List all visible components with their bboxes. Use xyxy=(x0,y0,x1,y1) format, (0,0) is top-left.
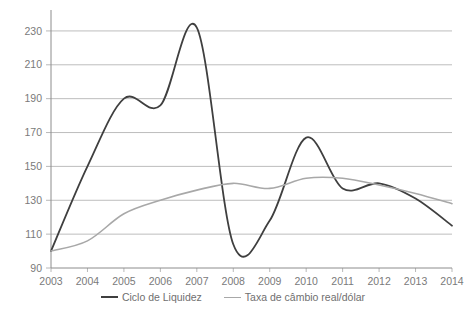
chart-plot-area: 90110130150170190210230 2003200420052006… xyxy=(0,0,466,290)
x-tick-label-2006: 2006 xyxy=(149,275,173,287)
x-tick-label-2003: 2003 xyxy=(39,275,63,287)
y-tick-label-110: 110 xyxy=(25,228,42,240)
x-tick-label-2012: 2012 xyxy=(367,275,391,287)
y-tick-label-90: 90 xyxy=(30,262,42,274)
gridlines-group xyxy=(46,31,452,268)
x-tick-label-2013: 2013 xyxy=(404,275,428,287)
x-tick-label-2005: 2005 xyxy=(112,275,136,287)
y-tick-label-230: 230 xyxy=(24,25,42,37)
series-line-taxa-de-cambio xyxy=(51,177,452,251)
legend-entry-taxa-de-cambio[interactable]: Taxa de câmbio real/dólar xyxy=(224,291,365,303)
x-axis-tick-labels: 2003200420052006200720082009201020112012… xyxy=(39,268,464,287)
x-tick-label-2008: 2008 xyxy=(222,275,246,287)
x-tick-label-2004: 2004 xyxy=(76,275,100,287)
y-tick-label-190: 190 xyxy=(24,92,42,104)
y-tick-label-130: 130 xyxy=(24,194,42,206)
chart-legend: Ciclo de Liquidez Taxa de câmbio real/dó… xyxy=(0,288,466,306)
x-tick-label-2009: 2009 xyxy=(258,275,282,287)
x-tick-label-2011: 2011 xyxy=(331,275,354,287)
y-axis-tick-labels: 90110130150170190210230 xyxy=(24,25,42,274)
legend-swatch-ciclo-de-liquidez xyxy=(101,296,118,298)
chart-figure: 90110130150170190210230 2003200420052006… xyxy=(0,0,466,326)
axis-lines-group xyxy=(51,10,452,268)
legend-label-taxa-de-cambio: Taxa de câmbio real/dólar xyxy=(245,291,365,303)
y-tick-label-210: 210 xyxy=(24,58,42,70)
legend-label-ciclo-de-liquidez: Ciclo de Liquidez xyxy=(122,291,202,303)
x-tick-label-2007: 2007 xyxy=(185,275,209,287)
y-tick-label-170: 170 xyxy=(24,126,42,138)
x-tick-label-2010: 2010 xyxy=(295,275,319,287)
legend-swatch-taxa-de-cambio xyxy=(224,297,241,298)
data-series-group xyxy=(51,24,452,257)
x-tick-label-2014: 2014 xyxy=(440,275,464,287)
line-chart-svg: 90110130150170190210230 2003200420052006… xyxy=(0,0,466,290)
y-tick-label-150: 150 xyxy=(24,160,42,172)
series-line-ciclo-de-liquidez xyxy=(51,24,452,257)
legend-entry-ciclo-de-liquidez[interactable]: Ciclo de Liquidez xyxy=(101,291,202,303)
